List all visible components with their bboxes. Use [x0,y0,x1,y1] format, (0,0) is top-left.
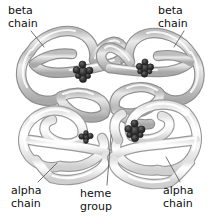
label-beta-chain-right: beta chain [158,5,188,30]
label-alpha-chain-left: alpha chain [11,185,42,210]
hemoglobin-figure: beta chain beta chain alpha chain heme g… [0,0,221,224]
label-beta-chain-left: beta chain [8,5,38,30]
label-heme-group: heme group [80,188,112,213]
label-alpha-chain-right: alpha chain [163,185,194,210]
alpha-chain-lower-right [112,104,197,185]
